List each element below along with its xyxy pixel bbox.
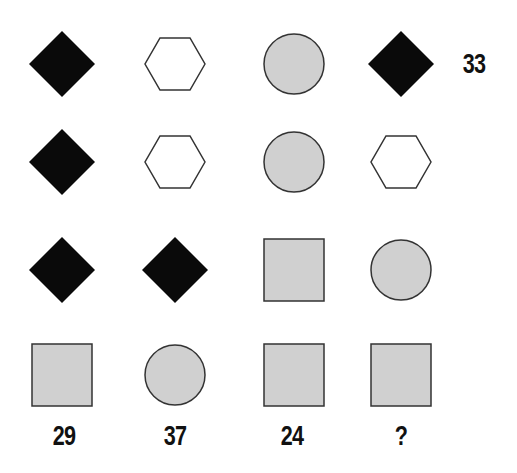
circle-gray-shape-r4c2 [145, 345, 205, 405]
square-gray-shape-r4c3 [264, 344, 324, 406]
hexagon-white-shape-r2c4 [371, 136, 431, 188]
column-1-total: 29 [53, 421, 75, 452]
square-gray-shape-r3c3 [264, 239, 324, 301]
circle-gray-shape-r2c3 [264, 132, 324, 192]
circle-gray-shape-r3c4 [371, 240, 431, 300]
column-3-total: 24 [281, 421, 303, 452]
column-2-total: 37 [164, 421, 186, 452]
hexagon-white-shape-r2c2 [145, 136, 205, 188]
diamond-black-shape-r1c1 [29, 31, 95, 97]
circle-gray-shape-r1c3 [264, 34, 324, 94]
square-gray-shape-r4c1 [32, 344, 92, 406]
row-1-total: 33 [463, 49, 485, 80]
square-gray-shape-r4c4 [371, 344, 431, 406]
hexagon-white-shape-r1c2 [145, 38, 205, 90]
column-4-total-unknown: ? [395, 421, 407, 452]
diamond-black-shape-r3c2 [142, 237, 208, 303]
diamond-black-shape-r1c4 [368, 31, 434, 97]
diamond-black-shape-r2c1 [29, 129, 95, 195]
shape-grid [0, 0, 517, 473]
diamond-black-shape-r3c1 [29, 237, 95, 303]
